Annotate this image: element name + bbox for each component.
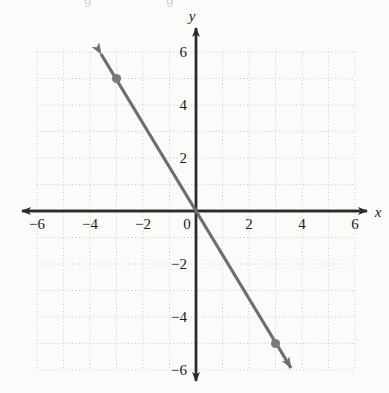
x-tick--4: −4 xyxy=(82,216,98,232)
x-tick-4: 4 xyxy=(298,216,306,232)
x-axis-label: x xyxy=(374,204,382,220)
y-tick--2: −2 xyxy=(171,256,187,272)
point-3-neg5 xyxy=(271,339,280,348)
graph-figure: ɡ ɡ xyxy=(0,0,389,393)
y-tick-2: 2 xyxy=(180,150,188,166)
x-tick--2: −2 xyxy=(135,216,151,232)
point-neg3-5 xyxy=(112,74,121,83)
origin-label: 0 xyxy=(183,216,191,232)
y-tick--6: −6 xyxy=(171,362,187,378)
y-tick-6: 6 xyxy=(180,44,188,60)
x-tick--6: −6 xyxy=(29,216,45,232)
coordinate-plane: x y −6 −4 −2 2 4 6 0 6 4 2 −2 −4 −6 xyxy=(0,0,389,393)
y-tick--4: −4 xyxy=(171,309,187,325)
x-tick-2: 2 xyxy=(245,216,253,232)
x-tick-labels: −6 −4 −2 2 4 6 xyxy=(29,216,359,232)
y-tick-4: 4 xyxy=(180,97,188,113)
x-tick-6: 6 xyxy=(351,216,359,232)
axis-lines xyxy=(22,28,367,381)
y-axis-label: y xyxy=(187,8,196,24)
